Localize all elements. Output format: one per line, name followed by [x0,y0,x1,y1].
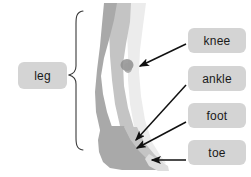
diagram-canvas: leg knee ankle foot toe [0,0,251,177]
label-leg-text: leg [34,69,51,83]
knee-arrow [140,44,186,66]
knee-marker-spot-inner [124,63,132,73]
leg-silhouette [95,3,169,171]
label-ankle-text: ankle [202,72,232,86]
label-knee[interactable]: knee [188,28,246,53]
label-foot[interactable]: foot [188,103,246,128]
label-ankle[interactable]: ankle [188,66,246,91]
leg-brace [69,11,83,150]
label-knee-text: knee [204,34,231,48]
label-foot-text: foot [207,109,228,123]
label-toe[interactable]: toe [188,140,246,165]
label-toe-text: toe [208,146,225,160]
label-leg[interactable]: leg [18,62,67,89]
